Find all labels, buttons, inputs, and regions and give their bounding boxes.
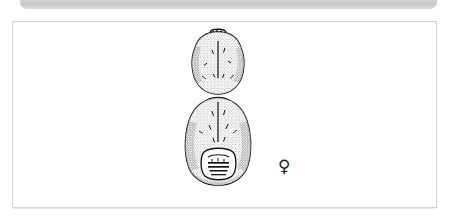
figure-frame: ♀ — [12, 21, 437, 208]
mite-line-drawing — [182, 26, 254, 188]
cephalothorax-part — [191, 29, 245, 95]
genital-plate-part — [201, 148, 236, 180]
panel-base-line — [12, 208, 437, 209]
mite-illustration — [182, 26, 254, 188]
figure-canvas: ♀ — [13, 22, 436, 207]
female-sex-symbol: ♀ — [278, 158, 290, 175]
collapsed-toolbar-strip[interactable] — [20, 0, 437, 9]
idiosoma-part — [184, 96, 252, 187]
